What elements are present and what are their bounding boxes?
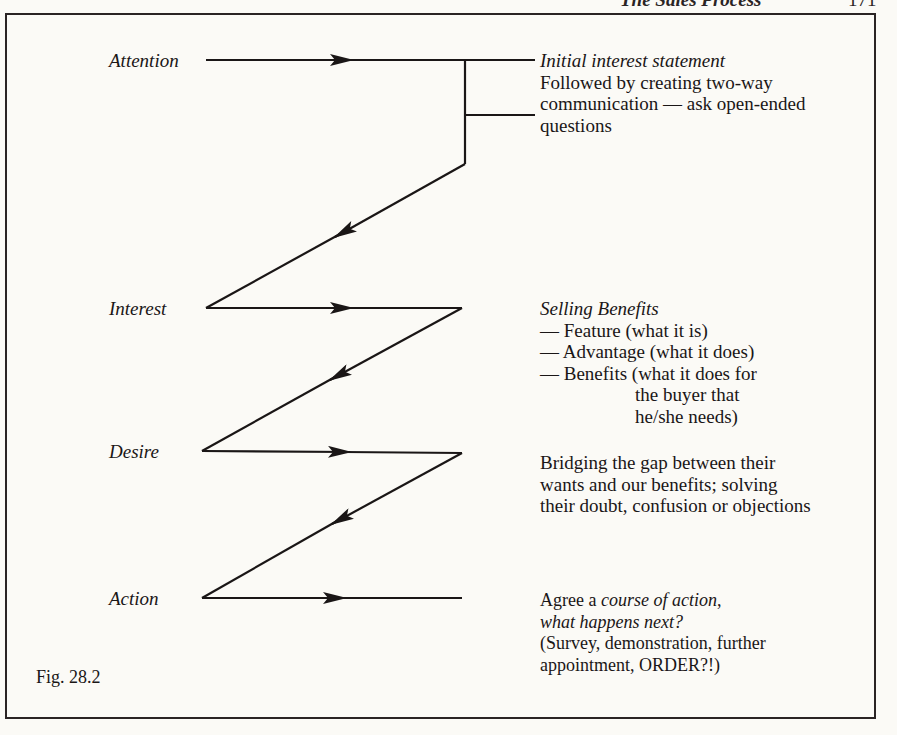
diagonal-desire-action bbox=[332, 453, 462, 524]
note-attention-line: Followed by creating two-way bbox=[540, 72, 805, 94]
stage-label-desire: Desire bbox=[109, 441, 159, 463]
stage-label-attention: Attention bbox=[109, 50, 179, 72]
note-interest: Selling Benefits — Feature (what it is) … bbox=[540, 298, 757, 427]
note-interest-continuation: the buyer that bbox=[540, 384, 757, 406]
note-action-italic: course of action bbox=[601, 590, 717, 610]
note-interest-item: — Advantage (what it does) bbox=[540, 341, 757, 363]
diagonal-attention-interest bbox=[335, 164, 465, 237]
note-action-line1: Agree a course of action, bbox=[540, 590, 766, 612]
diagonal-interest-desire bbox=[330, 308, 462, 380]
note-attention: Initial interest statement Followed by c… bbox=[540, 50, 805, 136]
note-action-suffix: , bbox=[717, 590, 722, 610]
desire-line bbox=[202, 451, 350, 452]
note-attention-heading: Initial interest statement bbox=[540, 50, 805, 72]
figure-label: Fig. 28.2 bbox=[36, 667, 101, 688]
stage-label-interest: Interest bbox=[109, 298, 166, 320]
note-attention-line: communication — ask open-ended bbox=[540, 93, 805, 115]
note-interest-item: — Benefits (what it does for bbox=[540, 363, 757, 385]
note-action-line: appointment, ORDER?!) bbox=[540, 655, 766, 677]
note-interest-continuation: he/she needs) bbox=[540, 406, 757, 428]
note-action-line2: what happens next? bbox=[540, 612, 766, 634]
note-interest-item: — Feature (what it is) bbox=[540, 320, 757, 342]
note-action-line: (Survey, demonstration, further bbox=[540, 633, 766, 655]
note-action-prefix: Agree a bbox=[540, 590, 601, 610]
note-desire-line: wants and our benefits; solving bbox=[540, 474, 811, 496]
note-desire-line: their doubt, confusion or objections bbox=[540, 495, 811, 517]
note-desire-line: Bridging the gap between their bbox=[540, 452, 811, 474]
note-desire: Bridging the gap between their wants and… bbox=[540, 452, 811, 517]
stage-label-action: Action bbox=[109, 588, 159, 610]
note-interest-heading: Selling Benefits bbox=[540, 298, 757, 320]
note-attention-line: questions bbox=[540, 115, 805, 137]
note-action: Agree a course of action, what happens n… bbox=[540, 590, 766, 676]
